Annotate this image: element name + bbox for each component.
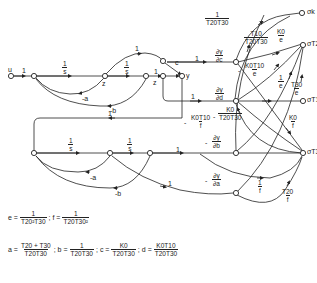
- def-b-frac: 1T20T30: [70, 242, 94, 257]
- node-sigma-T2: [300, 42, 305, 47]
- def-d-lhs: d =: [142, 246, 152, 253]
- edge-label-k-gain: 1T20T30: [205, 11, 229, 26]
- def-d-frac: K0T10T20T30: [154, 242, 178, 257]
- node-label-sigma-k: σk: [307, 8, 315, 15]
- sign-k0t10-over-e: -: [238, 67, 240, 74]
- edge-label-t20-over-f: T20f: [281, 188, 294, 203]
- edge-label-t30-over-e: T30e: [290, 81, 303, 96]
- edge-label-to-dy-dc: 1: [195, 55, 199, 62]
- edge-label-k0-over-t2030: K0T20T30: [218, 106, 242, 121]
- edge-label-k0t10-over-f: K0T10f: [190, 114, 211, 129]
- label-dy-da: ∂y∂a: [212, 172, 221, 187]
- sign-k0t10-over-f: -: [184, 119, 186, 126]
- edge-label-k0-over-e: K0e: [276, 28, 286, 43]
- def-b-lhs: b =: [58, 246, 68, 253]
- sign-dy-db: -: [205, 139, 207, 146]
- definitions-row-1: e = 1T20²T30 ; f = 1T20T30²: [8, 210, 89, 225]
- node-label-sigma-T3: σT3: [307, 148, 317, 155]
- node-y: [179, 73, 184, 78]
- edge-label-bottom-integrator-2: 1s: [127, 137, 133, 152]
- def-sep: ;: [54, 246, 56, 253]
- edge-label-bottom-neg-b: -b: [115, 190, 121, 197]
- def-sep: ;: [96, 246, 98, 253]
- node-dy-dd: [233, 98, 238, 103]
- edge-label-upper-arc: 1: [135, 45, 139, 52]
- edge-label-bottom-integrator-1: 1s: [68, 137, 74, 152]
- node-label-sigma-T1: σT1: [307, 96, 317, 103]
- edge-label-integrator-2: 1s: [124, 60, 130, 75]
- def-c-frac: K0T20T30: [111, 242, 135, 257]
- def-e-frac: 1T20²T30: [20, 210, 47, 225]
- node-c: [160, 58, 165, 63]
- edge-label-neg-a: -a: [82, 95, 88, 102]
- node-z2b: [160, 73, 165, 78]
- def-f-frac: 1T20T30²: [62, 210, 89, 225]
- edge-label-k0-over-f: K0f: [288, 114, 298, 129]
- node-label-u: u: [8, 66, 12, 73]
- node-bottom-3: [147, 150, 152, 155]
- def-e-lhs: e =: [8, 214, 18, 221]
- def-c-lhs: c =: [100, 246, 110, 253]
- node-dy-da: [233, 190, 238, 195]
- edge-label-input: 1: [22, 67, 26, 74]
- node-sigma-T3: [300, 150, 305, 155]
- node-1: [31, 73, 36, 78]
- def-sep: ;: [138, 246, 140, 253]
- node-bottom-2: [107, 150, 112, 155]
- edge-label-t10-gain: T10T20T30: [244, 30, 268, 45]
- edge-label-to-dy-db: 1: [176, 146, 180, 153]
- edge-label-to-dy-dd: 1: [191, 93, 195, 100]
- edge-label-integrator-1: 1s: [62, 60, 68, 75]
- node-z1: [102, 73, 107, 78]
- sign-k0-over-t2030: -: [213, 113, 215, 120]
- def-a-lhs: a =: [8, 246, 18, 253]
- edge-label-to-dy-da: 1: [168, 180, 172, 187]
- def-a-frac: T20 + T30T20T30: [20, 242, 52, 257]
- edge-label-one-over-e: 1e: [278, 74, 284, 89]
- edge-label-bottom-neg-a: -a: [90, 174, 96, 181]
- def-sep: ;: [49, 214, 51, 221]
- node-dy-dc: [233, 59, 238, 64]
- node-label-z2: z: [153, 79, 157, 86]
- edge-label-z-to-node: 1: [154, 68, 158, 75]
- node-u: [8, 73, 13, 78]
- node-label-sigma-T2: σT2: [307, 40, 317, 47]
- node-label-c: c: [175, 59, 179, 66]
- node-label-y: y: [186, 72, 190, 79]
- node-label-z1: z: [102, 80, 106, 87]
- edge-label-feedback-loop: 1: [108, 110, 112, 117]
- signal-flow-graph: [0, 0, 317, 283]
- definitions-row-2: a = T20 + T30T20T30 ; b = 1T20T30 ; c = …: [8, 242, 178, 257]
- sign-dy-da: -: [205, 177, 207, 184]
- node-bottom-1: [31, 150, 36, 155]
- node-sigma-k: [299, 10, 304, 15]
- label-dy-dd: ∂y∂d: [215, 86, 224, 101]
- node-dy-db: [233, 150, 238, 155]
- def-f-lhs: f =: [52, 214, 60, 221]
- node-z2: [143, 73, 148, 78]
- edge-label-k0t10-over-e: K0T10e: [244, 62, 265, 77]
- label-dy-db: ∂y∂b: [212, 134, 221, 149]
- label-dy-dc: ∂y∂c: [215, 48, 223, 63]
- node-sigma-T1: [300, 98, 305, 103]
- edge-label-one-over-f: 1f: [257, 179, 263, 194]
